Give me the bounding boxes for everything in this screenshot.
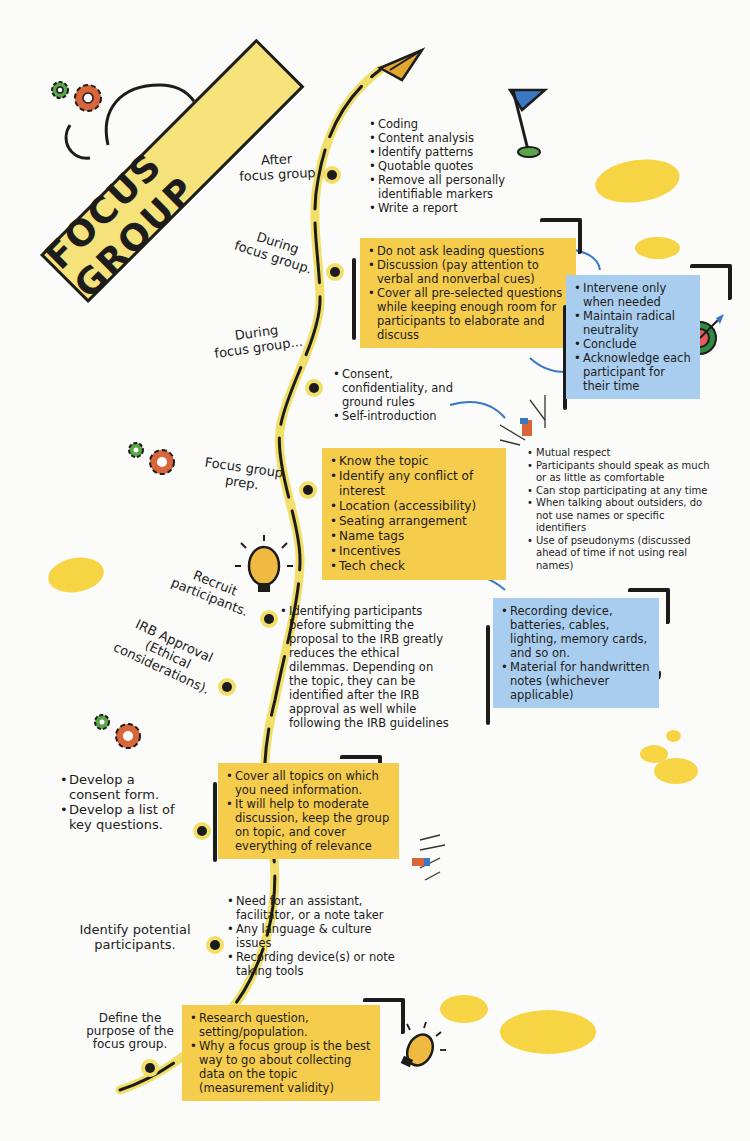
prep-box: Know the topic Identify any conflict of …	[322, 448, 506, 580]
gears-icon	[48, 78, 108, 118]
list-item: Participants should speak as much or as …	[527, 460, 712, 485]
stage-label-define: Define the purpose of the focus group.	[80, 1012, 180, 1051]
list-item: Seating arrangement	[330, 514, 498, 529]
timeline-node	[303, 485, 313, 495]
list-item: Cover all pre-selected questions while k…	[368, 286, 568, 342]
box-bar	[352, 258, 356, 340]
list-item: Write a report	[369, 201, 569, 215]
timeline-node	[210, 940, 220, 950]
decor-blob	[654, 758, 698, 784]
list-item: Incentives	[330, 544, 498, 559]
list-item: Identify patterns	[369, 145, 569, 159]
timeline-node	[309, 383, 319, 393]
moderator-box: Intervene only when needed Maintain radi…	[566, 275, 700, 399]
list-item: Consent, confidentiality, and ground rul…	[333, 367, 468, 409]
list-item: Recording device(s) or note taking tools	[227, 950, 397, 978]
decor-blob	[440, 995, 488, 1023]
decor-blob	[635, 237, 680, 259]
paper-plane-icon	[380, 50, 422, 80]
list-item: Content analysis	[369, 131, 569, 145]
stage-label-after: After focus group	[231, 150, 322, 185]
list-item: Know the topic	[330, 454, 498, 469]
decor-blob	[666, 730, 681, 742]
after-list: Coding Content analysis Identify pattern…	[369, 117, 569, 215]
list-item: Mutual respect	[527, 447, 712, 460]
list-item: Why a focus group is the best way to go …	[190, 1039, 372, 1095]
list-item: Material for handwritten notes (whicheve…	[501, 660, 651, 702]
list-item: Location (accessibility)	[330, 499, 498, 514]
list-item: When talking about outsiders, do not use…	[527, 497, 712, 535]
timeline-node	[264, 614, 274, 624]
timeline-node	[327, 170, 337, 180]
develop-box: Cover all topics on which you need infor…	[218, 763, 399, 859]
tech-box: Recording device, batteries, cables, lig…	[493, 598, 659, 708]
list-item: Any language & culture issues	[227, 922, 397, 950]
gears-icon	[126, 440, 186, 480]
list-item: Identifying participants before submitti…	[280, 604, 455, 730]
list-item: Discussion (pay attention to verbal and …	[368, 258, 568, 286]
list-item: Recording device, batteries, cables, lig…	[501, 604, 651, 660]
box-bar	[486, 625, 490, 725]
list-item: Name tags	[330, 529, 498, 544]
list-item: Remove all personally identifiable marke…	[369, 173, 569, 201]
identify-list: Need for an assistant, facilitator, or a…	[227, 894, 397, 978]
decor-blob	[500, 1010, 596, 1054]
list-item: Develop a consent form.	[60, 772, 185, 802]
list-item: Coding	[369, 117, 569, 131]
list-item: Cover all topics on which you need infor…	[226, 769, 391, 797]
during2-list: Consent, confidentiality, and ground rul…	[333, 367, 468, 423]
timeline-node	[222, 682, 232, 692]
lightbulb-icon	[235, 535, 293, 592]
box-bar	[213, 782, 217, 862]
list-item: Conclude	[574, 337, 692, 351]
stage-label-identify: Identify potential participants.	[70, 922, 200, 952]
ground-rules-list: Mutual respect Participants should speak…	[527, 447, 712, 572]
timeline-node	[330, 267, 340, 277]
during-box: Do not ask leading questions Discussion …	[360, 238, 576, 348]
recruit-list: Identifying participants before submitti…	[280, 604, 455, 730]
list-item: Need for an assistant, facilitator, or a…	[227, 894, 397, 922]
list-item: Use of pseudonyms (discussed ahead of ti…	[527, 535, 712, 573]
list-item: Tech check	[330, 559, 498, 574]
list-item: Maintain radical neutrality	[574, 309, 692, 337]
list-item: Do not ask leading questions	[368, 244, 568, 258]
develop-list: Develop a consent form. Develop a list o…	[60, 772, 185, 832]
list-item: Acknowledge each participant for their t…	[574, 351, 692, 393]
list-item: Research question, setting/population.	[190, 1011, 372, 1039]
list-item: Can stop participating at any time	[527, 485, 712, 498]
timeline-node	[145, 1063, 155, 1073]
list-item: Quotable quotes	[369, 159, 569, 173]
gears-icon	[92, 712, 152, 752]
list-item: Identify any conflict of interest	[330, 469, 498, 499]
list-item: Self-introduction	[333, 409, 468, 423]
list-item: Intervene only when needed	[574, 281, 692, 309]
lightbulb-icon	[401, 1022, 446, 1070]
timeline-node	[197, 826, 207, 836]
list-item: It will help to moderate discussion, kee…	[226, 797, 391, 853]
list-item: Develop a list of key questions.	[60, 802, 185, 832]
define-box: Research question, setting/population. W…	[182, 1005, 380, 1101]
